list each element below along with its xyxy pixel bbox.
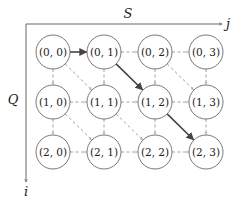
node-2-2: (2, 2) <box>138 135 172 169</box>
grid-path-diagram: S j Q i (0, 0)(0, 1)(0, 2)(0, 3)(1, 0)(1… <box>0 0 238 202</box>
horizontal-axis-label: S <box>124 6 133 21</box>
node-1-0: (1, 0) <box>36 85 70 119</box>
edge-1-2-to-2-3 <box>167 114 193 140</box>
node-0-2: (0, 2) <box>138 35 172 69</box>
vertical-axis-end-label: i <box>24 184 28 199</box>
node-label: (1, 3) <box>192 96 220 108</box>
node-label: (1, 0) <box>39 96 67 108</box>
edge-0-0-to-1-1 <box>65 64 91 90</box>
node-label: (2, 0) <box>39 146 67 158</box>
node-label: (0, 1) <box>90 46 118 58</box>
edge-0-2-to-1-3 <box>167 64 193 90</box>
node-1-2: (1, 2) <box>138 85 172 119</box>
node-label: (0, 3) <box>192 46 220 58</box>
node-0-1: (0, 1) <box>87 35 121 69</box>
node-label: (1, 1) <box>90 96 118 108</box>
node-1-3: (1, 3) <box>189 85 223 119</box>
vertical-axis-label: Q <box>8 92 19 107</box>
node-2-3: (2, 3) <box>189 135 223 169</box>
node-label: (0, 0) <box>39 46 67 58</box>
node-2-1: (2, 1) <box>87 135 121 169</box>
node-label: (0, 2) <box>141 46 169 58</box>
node-label: (2, 1) <box>90 146 118 158</box>
node-1-1: (1, 1) <box>87 85 121 119</box>
edges <box>53 52 206 152</box>
node-0-3: (0, 3) <box>189 35 223 69</box>
node-label: (2, 2) <box>141 146 169 158</box>
node-label: (2, 3) <box>192 146 220 158</box>
edge-1-0-to-2-1 <box>65 114 91 140</box>
node-0-0: (0, 0) <box>36 35 70 69</box>
node-2-0: (2, 0) <box>36 135 70 169</box>
horizontal-axis-end-label: j <box>223 16 230 31</box>
edge-0-1-to-1-2 <box>116 64 142 90</box>
node-label: (1, 2) <box>141 96 169 108</box>
edge-1-1-to-2-2 <box>116 114 142 140</box>
